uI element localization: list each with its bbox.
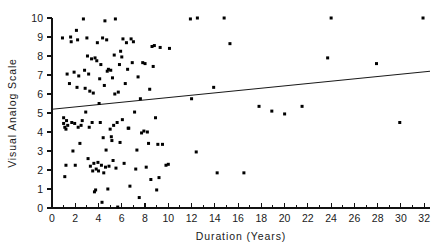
data-point bbox=[149, 178, 152, 181]
y-axis-tick-label: 6 bbox=[37, 88, 43, 100]
data-point bbox=[77, 74, 80, 77]
data-point bbox=[98, 77, 101, 80]
data-point bbox=[134, 168, 137, 171]
data-point bbox=[422, 17, 425, 20]
data-point bbox=[158, 176, 161, 179]
data-point bbox=[153, 44, 156, 47]
data-point bbox=[99, 121, 102, 124]
data-point bbox=[190, 97, 193, 100]
data-point bbox=[242, 171, 245, 174]
data-point bbox=[103, 19, 106, 22]
data-point bbox=[87, 73, 90, 76]
chart-figure: 0246810121416182022242628303201234567891… bbox=[0, 0, 446, 249]
data-point bbox=[90, 57, 93, 60]
regression-trend-line bbox=[52, 71, 430, 109]
data-point bbox=[132, 40, 135, 43]
data-point bbox=[65, 119, 68, 122]
data-point bbox=[326, 56, 329, 59]
data-point bbox=[102, 171, 105, 174]
data-point bbox=[85, 36, 88, 39]
x-axis-tick-label: 6 bbox=[119, 212, 125, 224]
data-point bbox=[103, 84, 106, 87]
data-point bbox=[139, 97, 142, 100]
data-point bbox=[330, 17, 333, 20]
data-point bbox=[116, 121, 119, 124]
data-point bbox=[119, 50, 122, 53]
data-point bbox=[126, 68, 129, 71]
data-point bbox=[76, 38, 79, 41]
data-point bbox=[145, 166, 148, 169]
data-point bbox=[94, 188, 97, 191]
data-point bbox=[105, 38, 108, 41]
data-point bbox=[124, 82, 127, 85]
data-point bbox=[147, 142, 150, 145]
data-point bbox=[212, 86, 215, 89]
x-axis-tick-label: 4 bbox=[96, 212, 102, 224]
data-point bbox=[111, 76, 114, 79]
data-point bbox=[78, 142, 81, 145]
data-point bbox=[270, 110, 273, 113]
data-point bbox=[92, 92, 95, 95]
data-point bbox=[66, 73, 69, 76]
x-axis-tick-label: 10 bbox=[162, 212, 174, 224]
y-axis-tick-label: 9 bbox=[37, 31, 43, 43]
data-point bbox=[64, 164, 67, 167]
data-point bbox=[154, 116, 157, 119]
y-axis-tick-label: 8 bbox=[37, 50, 43, 62]
data-point bbox=[156, 143, 159, 146]
data-point bbox=[102, 136, 105, 139]
data-point bbox=[155, 188, 158, 191]
data-point bbox=[101, 36, 104, 39]
data-point bbox=[92, 162, 95, 165]
data-point bbox=[283, 112, 286, 115]
data-point bbox=[100, 164, 103, 167]
data-point bbox=[81, 119, 84, 122]
data-point bbox=[66, 124, 69, 127]
data-point bbox=[70, 40, 73, 43]
data-point bbox=[398, 121, 401, 124]
x-axis-tick-label: 20 bbox=[279, 212, 291, 224]
data-point bbox=[89, 165, 92, 168]
data-point bbox=[83, 69, 86, 72]
data-point bbox=[70, 121, 73, 124]
y-axis-tick-label: 3 bbox=[37, 145, 43, 157]
x-axis-tick-label: 14 bbox=[209, 212, 221, 224]
data-point bbox=[159, 46, 162, 49]
data-point bbox=[64, 128, 67, 131]
y-axis-tick-label: 0 bbox=[37, 202, 43, 214]
data-point bbox=[135, 149, 138, 152]
x-axis-tick-label: 0 bbox=[49, 212, 55, 224]
data-point bbox=[110, 135, 113, 138]
x-axis-tick-label: 12 bbox=[186, 212, 198, 224]
data-point bbox=[120, 55, 123, 58]
data-point bbox=[86, 55, 89, 58]
data-point bbox=[91, 121, 94, 124]
data-point bbox=[75, 29, 78, 32]
data-point bbox=[113, 93, 116, 96]
data-point bbox=[223, 17, 226, 20]
data-point bbox=[131, 61, 134, 64]
data-point bbox=[152, 65, 155, 68]
data-point bbox=[63, 175, 66, 178]
data-point bbox=[128, 185, 131, 188]
data-point bbox=[68, 82, 71, 85]
data-point bbox=[142, 130, 145, 133]
data-point bbox=[96, 161, 99, 164]
data-point bbox=[109, 128, 112, 131]
x-axis-tick-label: 2 bbox=[72, 212, 78, 224]
data-point bbox=[167, 163, 170, 166]
data-point bbox=[146, 131, 149, 134]
data-point bbox=[62, 116, 65, 119]
data-point-group bbox=[61, 17, 425, 209]
data-point bbox=[189, 17, 192, 20]
data-point bbox=[113, 54, 116, 57]
data-point bbox=[69, 36, 72, 39]
x-axis-title: Duration (Years) bbox=[196, 230, 286, 242]
y-axis-tick-label: 4 bbox=[37, 126, 43, 138]
data-point bbox=[76, 86, 79, 89]
x-axis-tick-label: 32 bbox=[418, 212, 430, 224]
data-point bbox=[97, 169, 100, 172]
x-axis-tick-label: 26 bbox=[349, 212, 361, 224]
data-point bbox=[133, 111, 136, 114]
data-point bbox=[112, 124, 115, 127]
